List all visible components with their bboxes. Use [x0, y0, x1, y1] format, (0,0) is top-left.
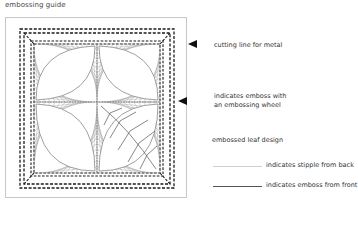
- emboss-legend-line: [213, 186, 262, 187]
- emboss-legend-label: indicates emboss from front: [266, 181, 357, 190]
- cutting-line-label: cutting line for metal: [214, 41, 282, 50]
- emboss-wheel-label-line1: indicates emboss with: [214, 92, 286, 101]
- cutting-line-arrow-icon: [188, 40, 197, 48]
- leaf-design-label: embossed leaf design: [212, 136, 283, 145]
- emboss-wheel-arrow-icon: [178, 97, 187, 105]
- stipple-legend-line: [213, 166, 262, 167]
- emboss-wheel-label-line2: an embossing wheel: [214, 101, 281, 110]
- stipple-legend-label: indicates stipple from back: [266, 161, 354, 170]
